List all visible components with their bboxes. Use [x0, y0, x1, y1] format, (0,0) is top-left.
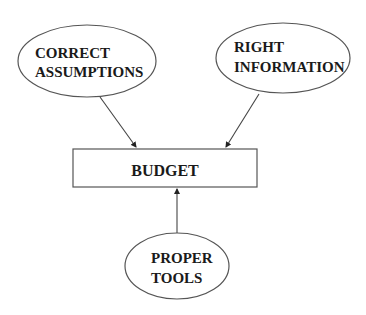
node-budget: BUDGET	[73, 149, 257, 187]
node-correct-assumptions: CORRECT ASSUMPTIONS	[18, 25, 156, 97]
arrow-assumptions-to-budget	[100, 97, 136, 147]
node-right-information: RIGHT INFORMATION	[216, 23, 350, 93]
node-proper-tools: PROPER TOOLS	[125, 233, 229, 299]
budget-diagram: CORRECT ASSUMPTIONS RIGHT INFORMATION BU…	[0, 0, 366, 315]
node-right-information-line1: RIGHT	[234, 39, 284, 55]
arrow-information-to-budget	[226, 94, 259, 147]
node-budget-label: BUDGET	[131, 162, 199, 179]
node-proper-tools-line2: TOOLS	[151, 270, 202, 286]
node-right-information-line2: INFORMATION	[234, 59, 345, 75]
node-correct-assumptions-line1: CORRECT	[35, 45, 110, 61]
node-correct-assumptions-line2: ASSUMPTIONS	[35, 64, 143, 80]
node-proper-tools-line1: PROPER	[151, 250, 213, 266]
